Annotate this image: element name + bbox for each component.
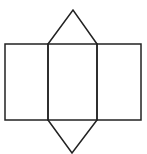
background	[0, 0, 147, 154]
prism-net-diagram	[0, 0, 147, 154]
